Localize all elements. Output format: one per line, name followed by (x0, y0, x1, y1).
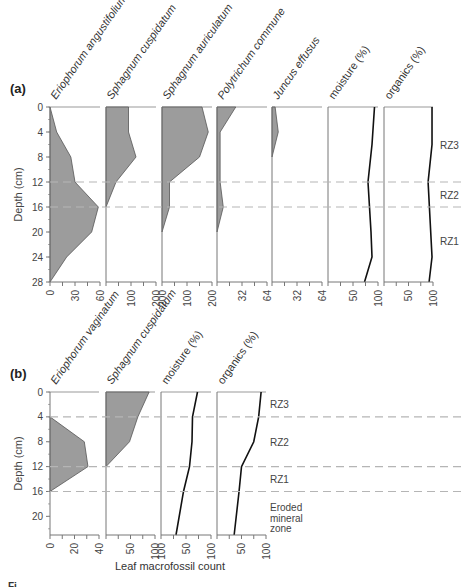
svg-text:0: 0 (45, 290, 56, 296)
zone-label: zone (270, 523, 292, 534)
svg-text:8: 8 (37, 152, 43, 163)
svg-text:50: 50 (348, 290, 359, 302)
column-title: moisture (%) (326, 43, 372, 101)
column-title: organics (%) (215, 329, 260, 386)
panel-label: (b) (10, 366, 27, 381)
svg-text:100: 100 (206, 543, 217, 560)
svg-text:50: 50 (125, 543, 136, 555)
svg-text:64: 64 (317, 290, 328, 302)
svg-text:0: 0 (37, 102, 43, 113)
series-organics: 50100organics (%) (215, 329, 272, 560)
zone-label: RZ3 (270, 399, 289, 410)
y-axis-label: Depth (cm) (12, 167, 24, 221)
column-title: Juncus effusus (269, 34, 322, 102)
zone-label: RZ1 (270, 474, 289, 485)
series-moisture: 50100moisture (%) (326, 43, 384, 306)
svg-text:50: 50 (403, 290, 414, 302)
svg-text:4: 4 (37, 411, 43, 422)
column-title: moisture (%) (159, 328, 205, 386)
caption-fragment: Fi (8, 581, 17, 587)
y-axis: 0481216202428Depth (cm) (12, 102, 50, 288)
svg-text:64: 64 (262, 290, 273, 302)
svg-text:100: 100 (126, 290, 137, 307)
panel-a: (a)0481216202428Depth (cm)03060Eriophoru… (10, 0, 466, 307)
svg-text:32: 32 (237, 290, 248, 302)
svg-text:0: 0 (45, 543, 56, 549)
series-sphagnum-auriculatum: 200100200Sphagnum auriculatum (157, 2, 235, 307)
svg-text:20: 20 (32, 227, 44, 238)
zone-label: RZ2 (440, 190, 459, 201)
svg-text:12: 12 (32, 177, 44, 188)
zone-label: RZ2 (270, 437, 289, 448)
x-axis-label: Leaf macrofossil count (115, 560, 225, 572)
zone-label: mineral (270, 513, 303, 524)
zone-label: RZ1 (440, 236, 459, 247)
panel-b: (b)048121620Depth (cm)02040Eriophorum va… (10, 287, 466, 560)
svg-text:0: 0 (37, 387, 43, 398)
y-axis: 048121620Depth (cm) (12, 387, 50, 529)
series-organics: 50100organics (%) (382, 44, 439, 307)
y-axis-label: Depth (cm) (12, 436, 24, 490)
svg-text:16: 16 (32, 202, 44, 213)
series-juncus-effusus: 3264Juncus effusus (269, 34, 327, 301)
svg-text:16: 16 (32, 486, 44, 497)
panel-label: (a) (10, 81, 26, 96)
svg-text:20: 20 (69, 543, 80, 555)
svg-text:30: 30 (70, 290, 81, 302)
svg-text:50: 50 (181, 543, 192, 555)
svg-text:20: 20 (32, 511, 44, 522)
svg-text:50: 50 (236, 543, 247, 555)
pollen-diagram: (a)0481216202428Depth (cm)03060Eriophoru… (0, 0, 466, 587)
svg-text:100: 100 (261, 543, 272, 560)
svg-text:100: 100 (373, 290, 384, 307)
svg-text:4: 4 (37, 127, 43, 138)
svg-text:200: 200 (207, 290, 218, 307)
svg-text:28: 28 (32, 277, 44, 288)
svg-text:8: 8 (37, 436, 43, 447)
series-polytrichum-commune: 3264Polytrichum commune (215, 5, 287, 301)
series-moisture: 10050100moisture (%) (156, 328, 217, 559)
svg-text:12: 12 (32, 461, 44, 472)
svg-text:32: 32 (292, 290, 303, 302)
svg-text:100: 100 (156, 543, 167, 560)
column-title: organics (%) (382, 44, 427, 101)
svg-text:100: 100 (182, 290, 193, 307)
series-sphagnum-cuspidatum: 50100Sphagnum cuspidatum (104, 287, 178, 560)
svg-text:24: 24 (32, 252, 44, 263)
zone-label: RZ3 (440, 140, 459, 151)
svg-text:40: 40 (94, 543, 105, 555)
zone-label: Eroded (270, 502, 302, 513)
svg-text:100: 100 (428, 290, 439, 307)
